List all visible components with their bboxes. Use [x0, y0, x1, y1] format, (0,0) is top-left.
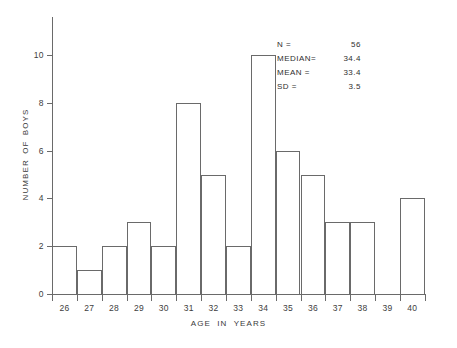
x-tick-label-28: 28	[102, 303, 127, 313]
stat-label: SD =	[277, 82, 329, 91]
x-tick-6	[201, 294, 202, 301]
stat-value: 3.5	[329, 82, 361, 91]
stat-label: N =	[277, 40, 329, 49]
stat-row: MEAN =33.4	[277, 68, 361, 82]
x-tick-10	[301, 294, 302, 301]
x-tick-label-29: 29	[126, 303, 151, 313]
x-tick-label-26: 26	[52, 303, 77, 313]
y-tick-4	[47, 198, 53, 199]
y-tick-6	[47, 151, 53, 152]
x-tick-label-39: 39	[375, 303, 400, 313]
y-tick-label-0: 0	[18, 290, 44, 298]
stat-label: MEDIAN=	[277, 54, 329, 63]
bar-age-30	[151, 246, 176, 294]
x-tick-label-27: 27	[77, 303, 102, 313]
x-tick-4	[151, 294, 152, 301]
x-tick-2	[102, 294, 103, 301]
x-tick-label-34: 34	[251, 303, 276, 313]
bar-age-36	[301, 175, 326, 295]
x-tick-label-37: 37	[325, 303, 350, 313]
x-tick-label-35: 35	[276, 303, 301, 313]
x-tick-9	[276, 294, 277, 301]
x-tick-label-36: 36	[300, 303, 325, 313]
y-axis-title: NUMBER OF BOYS	[21, 85, 30, 225]
x-tick-7	[226, 294, 227, 301]
bar-age-27	[77, 270, 102, 294]
y-tick-8	[47, 103, 53, 104]
bar-age-40	[400, 198, 425, 294]
x-axis-line	[52, 294, 425, 295]
x-tick-label-32: 32	[201, 303, 226, 313]
y-tick-label-10: 10	[18, 51, 44, 59]
histogram-figure: 0246810 262728293031323334353637383940 A…	[0, 0, 457, 348]
x-tick-14	[400, 294, 401, 301]
stat-row: N =56	[277, 40, 361, 54]
bar-age-29	[127, 222, 152, 294]
stat-value: 56	[329, 40, 361, 49]
bar-age-33	[226, 246, 251, 294]
stat-value: 34.4	[329, 54, 361, 63]
bar-age-32	[201, 175, 226, 295]
bar-age-38	[350, 222, 375, 294]
bar-age-28	[102, 246, 127, 294]
x-tick-label-33: 33	[226, 303, 251, 313]
y-tick-10	[47, 55, 53, 56]
bar-age-31	[176, 103, 201, 294]
x-tick-0	[52, 294, 53, 301]
x-axis-title: AGE IN YEARS	[0, 319, 457, 328]
stat-row: SD =3.5	[277, 82, 361, 96]
x-tick-label-40: 40	[400, 303, 425, 313]
stat-row: MEDIAN=34.4	[277, 54, 361, 68]
bar-age-26	[52, 246, 77, 294]
x-tick-label-31: 31	[176, 303, 201, 313]
x-tick-8	[251, 294, 252, 301]
x-tick-1	[77, 294, 78, 301]
stat-value: 33.4	[329, 68, 361, 77]
x-tick-12	[350, 294, 351, 301]
x-tick-13	[375, 294, 376, 301]
x-tick-3	[127, 294, 128, 301]
y-tick-label-2: 2	[18, 242, 44, 250]
bar-age-35	[276, 151, 301, 294]
bar-age-34	[251, 55, 276, 294]
x-tick-15	[425, 294, 426, 301]
x-tick-11	[325, 294, 326, 301]
statistics-annotation: N =56MEDIAN=34.4MEAN =33.4SD =3.5	[277, 40, 361, 96]
stat-label: MEAN =	[277, 68, 329, 77]
bar-age-37	[325, 222, 350, 294]
x-tick-label-38: 38	[350, 303, 375, 313]
x-tick-label-30: 30	[151, 303, 176, 313]
x-tick-5	[176, 294, 177, 301]
